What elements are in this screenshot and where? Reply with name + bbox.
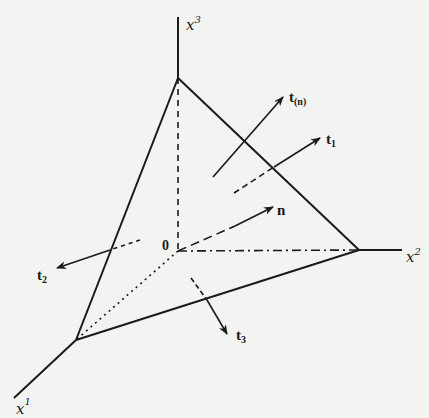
n-vector [235, 207, 273, 226]
tn-label: t(n) [289, 89, 306, 108]
edge-apex-x2 [178, 78, 359, 250]
tn-vector [213, 97, 283, 177]
x3-label: x3 [186, 14, 201, 34]
tetrahedron-diagram: x3 x2 x1 0 t(n) t1 n t2 t3 [0, 0, 429, 418]
hidden-edge-x1 [76, 251, 178, 340]
t1-vector-hidden [234, 167, 274, 193]
t1-label: t1 [326, 131, 336, 149]
t3-vector-hidden [191, 278, 207, 300]
edge-apex-x1 [76, 78, 178, 340]
x1-label: x1 [16, 396, 31, 418]
t2-label: t2 [37, 267, 47, 285]
edge-x1-x2 [76, 250, 359, 340]
hidden-edge-x2 [178, 250, 359, 251]
t2-vector [57, 250, 110, 268]
n-label: n [277, 202, 286, 218]
origin-label: 0 [162, 238, 169, 253]
t1-vector [274, 138, 320, 167]
n-vector-hidden [178, 226, 235, 251]
x1-axis [14, 340, 76, 398]
t3-vector [207, 300, 227, 334]
x2-label: x2 [406, 246, 421, 266]
t3-label: t3 [236, 327, 246, 345]
